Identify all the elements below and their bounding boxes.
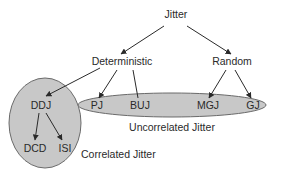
- arrow-deterministic-to-pj: [99, 70, 117, 98]
- node-ddj: DDJ: [31, 99, 51, 111]
- node-isi: ISI: [59, 142, 72, 154]
- arrow-jitter-to-deterministic: [121, 26, 164, 54]
- node-jitter: Jitter: [165, 8, 188, 20]
- arrow-random-to-mgj: [209, 70, 226, 98]
- node-mgj: MGJ: [197, 99, 219, 111]
- arrow-jitter-to-random: [187, 26, 231, 54]
- uncorrelated-jitter-ellipse: [78, 93, 266, 117]
- node-deterministic: Deterministic: [92, 55, 153, 67]
- node-random: Random: [212, 55, 252, 67]
- node-pj: PJ: [91, 99, 103, 111]
- label-uncorrelated-jitter: Uncorrelated Jitter: [129, 121, 215, 133]
- arrow-random-to-gj: [235, 70, 251, 98]
- node-dcd: DCD: [24, 142, 47, 154]
- node-buj: BUJ: [130, 99, 150, 111]
- node-gj: GJ: [246, 99, 259, 111]
- correlated-jitter-ellipse: [9, 78, 81, 168]
- jitter-taxonomy-diagram: Jitter Deterministic Random DDJ PJ BUJ M…: [0, 0, 283, 178]
- label-correlated-jitter: Correlated Jitter: [81, 148, 156, 160]
